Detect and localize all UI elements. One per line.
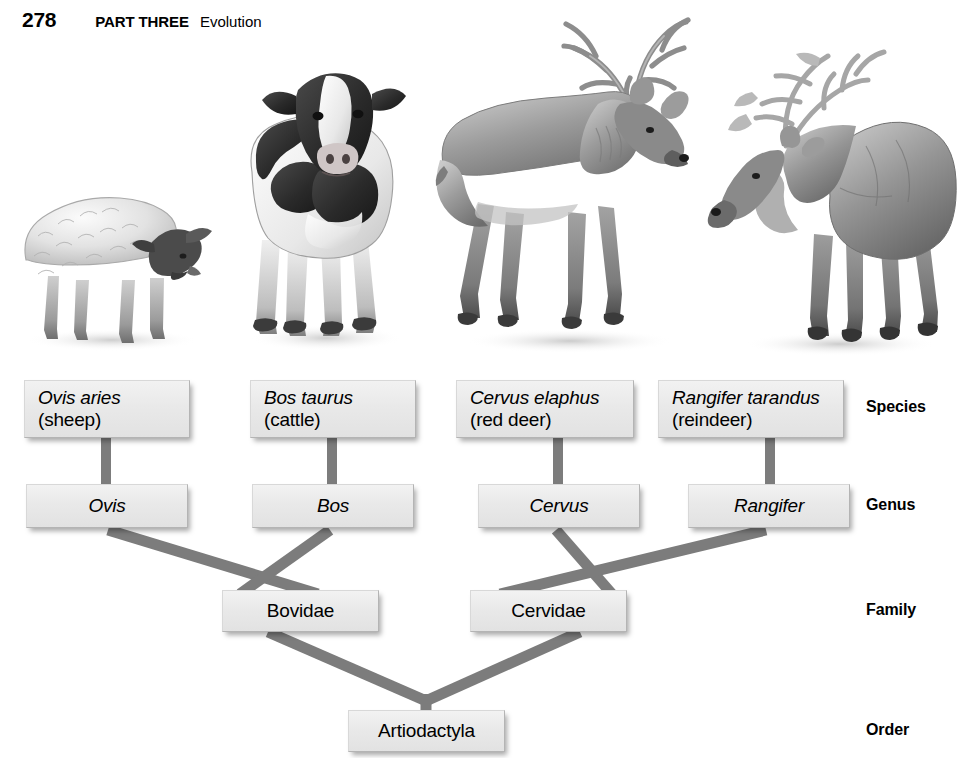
order-node-artiodactyla[interactable]: Artiodactyla [348, 710, 505, 752]
species-common-name: (red deer) [470, 409, 624, 431]
species-node-rangifer-tarandus[interactable]: Rangifer tarandus (reindeer) [658, 380, 844, 438]
family-name: Bovidae [267, 600, 334, 621]
species-common-name: (sheep) [38, 409, 180, 431]
figure-page: 278 PART THREE Evolution [0, 0, 962, 758]
rank-label-family: Family [866, 601, 916, 619]
order-name: Artiodactyla [378, 720, 475, 741]
species-scientific-name: Ovis aries [38, 387, 180, 409]
species-node-ovis-aries[interactable]: Ovis aries (sheep) [24, 380, 190, 438]
family-node-bovidae[interactable]: Bovidae [222, 590, 379, 632]
family-name: Cervidae [511, 600, 585, 621]
illustration-band [0, 0, 962, 372]
species-common-name: (reindeer) [672, 409, 834, 431]
reindeer-illustration [690, 28, 960, 358]
species-node-bos-taurus[interactable]: Bos taurus (cattle) [250, 380, 416, 438]
cow-illustration [222, 54, 418, 354]
genus-node-rangifer[interactable]: Rangifer [688, 484, 850, 528]
rank-label-species: Species [866, 398, 926, 416]
genus-name: Ovis [88, 495, 125, 516]
genus-node-bos[interactable]: Bos [252, 484, 414, 528]
species-scientific-name: Cervus elaphus [470, 387, 624, 409]
red-deer-illustration [420, 8, 702, 356]
rank-label-genus: Genus [866, 496, 915, 514]
species-scientific-name: Rangifer tarandus [672, 387, 834, 409]
sheep-illustration [4, 168, 222, 354]
species-node-cervus-elaphus[interactable]: Cervus elaphus (red deer) [456, 380, 634, 438]
rank-label-order: Order [866, 721, 909, 739]
genus-node-ovis[interactable]: Ovis [26, 484, 188, 528]
species-scientific-name: Bos taurus [264, 387, 406, 409]
genus-name: Rangifer [734, 495, 804, 516]
species-common-name: (cattle) [264, 409, 406, 431]
genus-name: Bos [317, 495, 349, 516]
genus-name: Cervus [530, 495, 589, 516]
family-node-cervidae[interactable]: Cervidae [470, 590, 627, 632]
genus-node-cervus[interactable]: Cervus [478, 484, 640, 528]
